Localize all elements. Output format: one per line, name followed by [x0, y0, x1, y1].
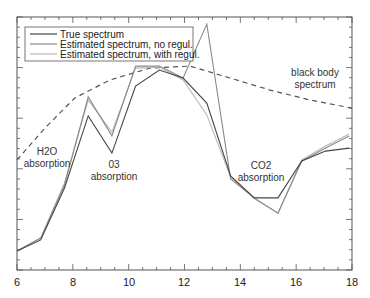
- o3-annotation-line1: 03: [108, 159, 120, 170]
- o3-annotation-line2: absorption: [91, 171, 138, 182]
- x-tick-8: 8: [70, 276, 76, 288]
- legend-label-with-regul: Estimated spectrum, with regul.: [60, 49, 200, 60]
- x-tick-14: 14: [234, 276, 246, 288]
- h2o-annotation-line2: absorption: [24, 158, 71, 169]
- legend: True spectrum Estimated spectrum, no reg…: [25, 27, 200, 61]
- blackbody-annotation-line1: black body: [291, 67, 339, 78]
- x-tick-18: 18: [346, 276, 358, 288]
- x-tick-10: 10: [123, 276, 135, 288]
- co2-annotation-line2: absorption: [238, 172, 285, 183]
- co2-annotation-line1: CO2: [251, 160, 272, 171]
- x-tick-labels: 6 8 10 12 14 16 18: [14, 276, 358, 288]
- blackbody-annotation-line2: spectrum: [294, 79, 335, 90]
- x-tick-12: 12: [178, 276, 190, 288]
- x-tick-16: 16: [290, 276, 302, 288]
- spectrum-chart: 6 8 10 12 14 16 18 H2O absorption 03 abs…: [0, 0, 370, 298]
- annotations: H2O absorption 03 absorption CO2 absorpt…: [24, 67, 339, 183]
- x-tick-6: 6: [14, 276, 20, 288]
- h2o-annotation-line1: H2O: [37, 146, 58, 157]
